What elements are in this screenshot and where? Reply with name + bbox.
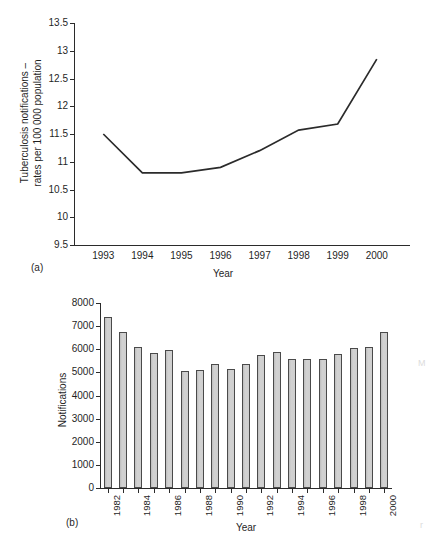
x-tick-label-b: 1998 xyxy=(358,495,368,516)
bar xyxy=(303,359,311,488)
x-tick-label-b: 1996 xyxy=(327,495,337,516)
x-tick-b xyxy=(246,489,247,493)
figure-a-line-chart: Tuberculosis notifications – rates per 1… xyxy=(0,0,446,290)
x-tick-b xyxy=(185,489,186,493)
x-tick-b xyxy=(261,489,262,493)
x-tick-label-b: 1986 xyxy=(173,495,183,516)
y-tick-label-b: 0 xyxy=(88,483,94,493)
bar xyxy=(181,371,189,488)
y-tick-label-a: 12 xyxy=(57,101,68,111)
bar xyxy=(242,364,250,488)
x-tick-label-a: 1997 xyxy=(248,251,270,261)
bar xyxy=(273,352,281,488)
y-tick-label-b: 1000 xyxy=(72,460,94,470)
x-axis-title-a: Year xyxy=(0,268,446,280)
y-tick-label-b: 4000 xyxy=(72,391,94,401)
x-tick-label-a: 1994 xyxy=(131,251,153,261)
plot-area-a: 9.51010.51111.51212.51313.5 199319941995… xyxy=(74,23,410,245)
page-artifact-mark-2: r xyxy=(420,520,423,530)
x-tick-b xyxy=(277,489,278,493)
bar xyxy=(257,355,265,488)
figure-b-bar-chart: Notifications 01000200030004000500060007… xyxy=(0,290,446,552)
x-tick-label-b: 1994 xyxy=(296,495,306,516)
bar xyxy=(350,348,358,488)
x-tick-label-a: 2000 xyxy=(366,251,388,261)
x-tick-b xyxy=(108,489,109,493)
bar xyxy=(319,359,327,489)
x-axis-title-b: Year xyxy=(100,522,392,534)
bar xyxy=(334,354,342,488)
bar xyxy=(165,350,173,488)
x-tick-b xyxy=(154,489,155,493)
y-tick-label-b: 7000 xyxy=(72,321,94,331)
x-tick-b xyxy=(307,489,308,493)
x-tick-b xyxy=(292,489,293,493)
x-tick-b xyxy=(384,489,385,493)
y-tick-label-a: 10.5 xyxy=(49,185,68,195)
y-tick-label-a: 13 xyxy=(57,46,68,56)
x-tick-label-b: 1990 xyxy=(235,495,245,516)
panel-label-a: (a) xyxy=(31,262,43,273)
x-tick-b xyxy=(369,489,370,493)
panel-label-b: (b) xyxy=(66,517,78,528)
y-axis-title-b: Notifications xyxy=(52,350,74,450)
bar xyxy=(288,359,296,488)
plot-area-b: 010002000300040005000600070008000 198219… xyxy=(100,303,392,488)
x-tick-b xyxy=(138,489,139,493)
y-tick-label-a: 11.5 xyxy=(49,129,68,139)
y-tick-label-a: 9.5 xyxy=(54,240,68,250)
y-axis-title-b-text: Notifications xyxy=(57,373,69,427)
bar xyxy=(227,369,235,488)
x-tick-label-a: 1993 xyxy=(92,251,114,261)
x-tick-label-a: 1996 xyxy=(209,251,231,261)
x-tick-b xyxy=(169,489,170,493)
y-tick-label-b: 8000 xyxy=(72,298,94,308)
y-axis-title-a: Tuberculosis notifications – rates per 1… xyxy=(18,30,44,216)
x-tick-label-a: 1999 xyxy=(327,251,349,261)
y-tick-b xyxy=(96,488,100,489)
x-tick-label-b: 1992 xyxy=(265,495,275,516)
x-tick-b xyxy=(200,489,201,493)
bar xyxy=(196,370,204,488)
y-tick-label-b: 2000 xyxy=(72,437,94,447)
bar xyxy=(119,332,127,488)
x-tick-label-a: 1995 xyxy=(170,251,192,261)
bar xyxy=(211,364,219,488)
bar xyxy=(150,353,158,488)
x-tick-b xyxy=(323,489,324,493)
bar-series-b xyxy=(100,303,392,488)
x-tick-b xyxy=(123,489,124,493)
page-artifact-mark-1: M xyxy=(418,358,426,368)
x-tick-b xyxy=(231,489,232,493)
bar xyxy=(134,347,142,488)
x-tick-label-b: 1984 xyxy=(142,495,152,516)
x-tick-label-b: 1982 xyxy=(112,495,122,516)
y-tick-label-a: 11 xyxy=(58,157,68,167)
x-tick-b xyxy=(354,489,355,493)
y-axis-title-a-line2: rates per 100 000 population xyxy=(31,59,42,186)
x-tick-label-b: 2000 xyxy=(388,495,398,516)
x-tick-label-a: 1998 xyxy=(288,251,310,261)
x-tick-label-b: 1988 xyxy=(204,495,214,516)
bar xyxy=(365,347,373,488)
bar xyxy=(104,317,112,488)
bar xyxy=(380,332,388,488)
y-tick-label-a: 12.5 xyxy=(49,74,68,84)
y-tick-label-b: 5000 xyxy=(72,367,94,377)
y-tick-label-b: 3000 xyxy=(72,414,94,424)
y-tick-label-a: 10 xyxy=(57,212,68,222)
x-axis-line-a xyxy=(74,245,410,246)
y-axis-title-a-line1: Tuberculosis notifications – xyxy=(19,63,30,183)
x-tick-b xyxy=(338,489,339,493)
y-tick-a xyxy=(70,245,74,246)
line-series-a xyxy=(74,23,410,245)
x-tick-b xyxy=(215,489,216,493)
y-tick-label-a: 13.5 xyxy=(49,18,68,28)
y-tick-label-b: 6000 xyxy=(72,344,94,354)
